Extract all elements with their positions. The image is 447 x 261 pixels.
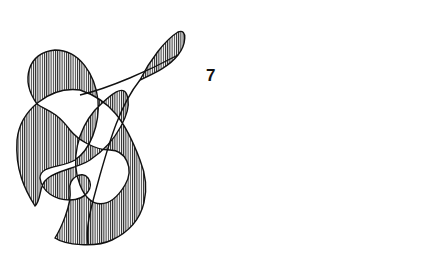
figure-canvas [0,0,447,261]
left-curve [17,31,185,245]
figure-number-label: 7 [206,66,215,86]
